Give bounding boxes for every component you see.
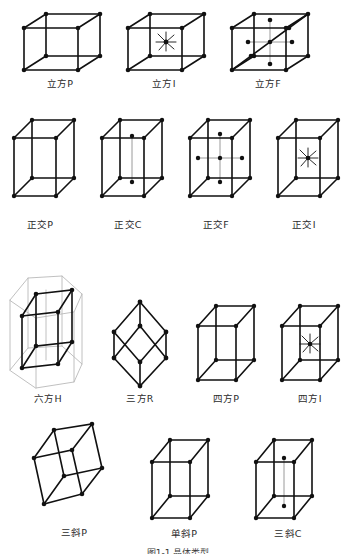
monoclinic-p-drawing: [146, 428, 222, 528]
body-centre-node: [308, 342, 313, 347]
lattice-cell-ortho-f: [184, 112, 260, 212]
bravais-lattice-figure: 立方P 立方I: [0, 0, 356, 554]
lattice-label-cubic-f: 立方F: [208, 78, 328, 89]
ortho-p-drawing: [8, 112, 84, 212]
triclinic-p-drawing: [24, 420, 114, 524]
lattice-label-trigonal-r: 三方R: [104, 393, 176, 404]
cubic-p-drawing: [16, 8, 108, 78]
lattice-label-ortho-f: 正交F: [176, 219, 256, 230]
ortho-c-drawing: [96, 112, 172, 212]
ortho-f-drawing: [184, 112, 260, 212]
lattice-label-cubic-i: 立方I: [104, 78, 224, 89]
body-centre-node: [306, 156, 311, 161]
lattice-label-triclinic-c: 三斜C: [250, 528, 326, 539]
lattice-cell-triclinic-c: [250, 428, 326, 528]
lattice-label-cubic-p: 立方P: [0, 78, 120, 89]
cubic-f-drawing: [224, 8, 316, 78]
lattice-cell-trigonal-r: [104, 296, 176, 392]
lattice-cell-ortho-c: [96, 112, 172, 212]
lattice-cell-tetra-i: [276, 288, 352, 390]
lattice-cell-cubic-p: [16, 8, 108, 78]
lattice-cell-cubic-f: [224, 8, 316, 78]
lattice-label-tetra-i: 四方I: [274, 393, 346, 404]
tetra-p-drawing: [192, 288, 268, 390]
cubic-i-drawing: [120, 8, 212, 78]
lattice-cell-tetra-p: [192, 288, 268, 390]
ortho-i-drawing: [272, 112, 348, 212]
body-centre-node: [164, 40, 169, 45]
lattice-cell-triclinic-p: [24, 420, 114, 524]
lattice-cell-cubic-i: [120, 8, 212, 78]
lattice-label-hex-h: 六方H: [8, 393, 88, 404]
lattice-cell-hex-h: [6, 264, 96, 392]
lattice-label-ortho-c: 正交C: [88, 219, 168, 230]
lattice-label-monoclinic-p: 单斜P: [146, 528, 222, 539]
tetra-i-drawing: [276, 288, 352, 390]
figure-caption: 图1-1 晶体类型: [0, 546, 356, 554]
triclinic-c-drawing: [250, 428, 326, 528]
lattice-cell-monoclinic-p: [146, 428, 222, 528]
hex-h-drawing: [6, 264, 96, 392]
lattice-cell-ortho-i: [272, 112, 348, 212]
lattice-cell-ortho-p: [8, 112, 84, 212]
lattice-label-ortho-i: 正交I: [264, 219, 344, 230]
lattice-label-triclinic-p: 三斜P: [34, 527, 114, 538]
lattice-label-tetra-p: 四方P: [190, 393, 262, 404]
lattice-label-ortho-p: 正交P: [0, 219, 80, 230]
trigonal-r-drawing: [104, 296, 176, 392]
